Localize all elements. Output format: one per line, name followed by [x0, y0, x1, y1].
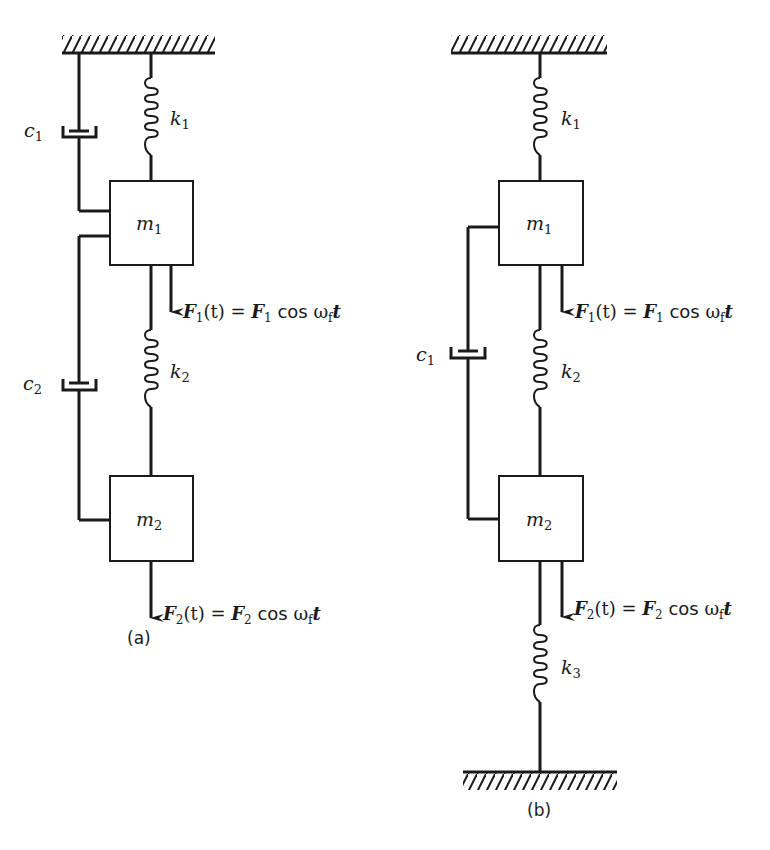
label-c1-b: c1 [416, 345, 435, 367]
label-m1-b: m1 [526, 214, 552, 236]
label-m1-a: m1 [136, 214, 162, 236]
spring-k1-b [534, 53, 547, 181]
force-label-f1-a: F1(t) = F1 cos ωft [183, 303, 341, 324]
ceiling-support-b [451, 35, 607, 53]
force-label-f2-a: F2(t) = F2 cos ωft [163, 605, 321, 626]
label-c1-a: c1 [24, 121, 43, 143]
force-label-f1-b: F1(t) = F1 cos ωft [575, 303, 733, 324]
damper-c1-a [63, 53, 110, 211]
vibration-systems-diagram [0, 0, 770, 850]
ceiling-support-a [62, 35, 215, 53]
label-k3-b: k3 [561, 658, 581, 680]
floor-support-b [463, 772, 617, 790]
damper-c2-a [63, 236, 110, 520]
caption-b: (b) [527, 802, 551, 819]
label-m2-b: m2 [526, 510, 552, 532]
panel-b [451, 35, 617, 790]
label-k2-b: k2 [561, 362, 581, 384]
label-c2-a: c2 [23, 374, 42, 396]
label-k1-b: k1 [561, 109, 581, 131]
spring-k2-b [534, 265, 547, 476]
label-m2-a: m2 [136, 510, 162, 532]
force-label-f2-b: F2(t) = F2 cos ωft [574, 600, 732, 621]
caption-a: (a) [127, 630, 151, 647]
spring-k1-a [145, 53, 158, 181]
spring-k3-b [534, 561, 547, 772]
damper-c1-b [451, 227, 499, 519]
label-k2-a: k2 [170, 362, 190, 384]
label-k1-a: k1 [170, 109, 190, 131]
spring-k2-a [145, 265, 158, 476]
